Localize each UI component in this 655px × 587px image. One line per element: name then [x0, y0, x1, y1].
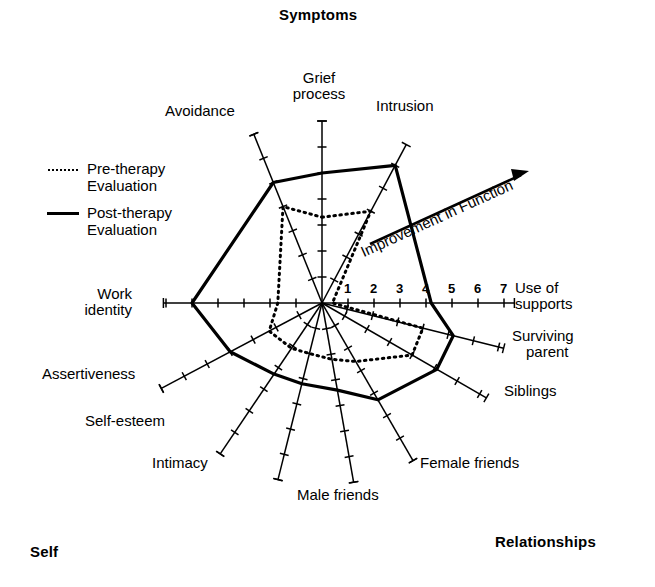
axis-end-cap [484, 394, 489, 403]
axis-spoke [322, 303, 504, 348]
legend-label-post-line2: Evaluation [87, 221, 172, 238]
axis-tick [331, 323, 339, 328]
quadrant-label-self: Self [30, 543, 58, 560]
axis-label-self-esteem: Self-esteem [85, 413, 165, 429]
legend-label-post-line1: Post-therapy [87, 204, 172, 221]
axis-end-cap [216, 451, 224, 457]
scale-tick-label-1: 1 [344, 281, 351, 296]
axis-tick [286, 428, 295, 430]
axis-tick [477, 390, 482, 398]
axis-label-grief-process: Grief process Grief process [282, 70, 356, 102]
axis-tick [498, 343, 500, 352]
legend-label-pre-line1: Pre-therapy [87, 160, 165, 177]
axis-tick [345, 456, 354, 458]
axis-label-assertiveness: Assertiveness [42, 366, 135, 382]
scale-tick-label-4: 4 [422, 281, 429, 296]
axis-label-intrusion: Intrusion [376, 98, 434, 114]
axis-tick [311, 327, 320, 329]
axis-tick [280, 453, 289, 455]
axis-spoke [161, 303, 322, 388]
axis-tick [365, 325, 370, 333]
axis-tick [396, 436, 404, 441]
axis-tick [304, 322, 311, 327]
axis-end-cap [159, 384, 164, 393]
axis-spoke [278, 303, 322, 480]
legend: Pre-therapy Evaluation Post-therapy Eval… [46, 160, 172, 248]
dotted-line-swatch-icon [46, 160, 80, 178]
axis-tick [322, 328, 331, 330]
axis-tick [472, 336, 474, 345]
axis-end-cap [349, 481, 359, 483]
axis-tick [342, 312, 347, 320]
axis-spoke [322, 303, 486, 398]
scale-tick-label-7: 7 [500, 281, 507, 296]
axis-label-siblings: Siblings [504, 383, 557, 399]
axis-tick [331, 379, 340, 381]
axis-label-use-of-supports-line1: Use of [515, 280, 605, 296]
axis-tick [455, 377, 460, 385]
scale-tick-label-2: 2 [370, 281, 377, 296]
axis-tick [231, 430, 238, 435]
axis-label-grief-process-line1: Grief [282, 70, 356, 86]
axis-label-grief-process-line2: process [282, 86, 356, 102]
axis-end-cap [402, 142, 411, 147]
axis-spoke [254, 134, 322, 303]
axis-label-work-identity: Work identity [48, 286, 132, 318]
axis-label-use-of-supports: Use of supports [515, 280, 605, 312]
quadrant-label-symptoms: Symptoms [279, 6, 357, 23]
axis-label-female-friends: Female friends [420, 455, 519, 471]
legend-item-pre-therapy: Pre-therapy Evaluation [46, 160, 172, 194]
radar-chart-page: Symptoms Relationships Self Grief proces… [0, 0, 655, 587]
axis-tick [387, 338, 392, 346]
axis-end-cap [409, 458, 418, 463]
legend-item-post-therapy: Post-therapy Evaluation [46, 204, 172, 238]
axis-tick [370, 391, 378, 396]
scale-tick-label-3: 3 [396, 281, 403, 296]
axis-tick [383, 413, 391, 418]
solid-line-swatch-icon [46, 204, 80, 222]
axis-label-work-identity-line2: identity [48, 302, 132, 318]
axis-label-male-friends: Male friends [297, 487, 379, 503]
axis-tick [357, 368, 365, 373]
scale-tick-label-6: 6 [474, 281, 481, 296]
axis-tick [336, 405, 345, 407]
axis-label-surviving-parent-line2: parent [526, 344, 612, 360]
axis-label-surviving-parent: Surviving parent [512, 328, 612, 360]
axis-tick [260, 387, 267, 392]
axis-tick [246, 408, 253, 413]
axis-label-use-of-supports-line2: supports [515, 296, 605, 312]
axis-tick [327, 353, 336, 355]
axis-label-surviving-parent-line1: Surviving [512, 328, 612, 344]
axis-spokes-group [161, 121, 514, 482]
scale-tick-label-5: 5 [448, 281, 455, 296]
quadrant-label-relationships: Relationships [495, 533, 596, 550]
axis-tick [292, 403, 301, 405]
axis-label-avoidance: Avoidance [165, 103, 235, 119]
axis-tick [275, 365, 282, 370]
axis-tick [340, 430, 349, 432]
axis-tick [344, 346, 352, 351]
axis-label-intimacy: Intimacy [152, 455, 208, 471]
legend-label-pre-line2: Evaluation [87, 177, 165, 194]
axis-tick [299, 378, 308, 380]
axis-ticks-group [159, 121, 514, 483]
axis-label-work-identity-line1: Work [48, 286, 132, 302]
